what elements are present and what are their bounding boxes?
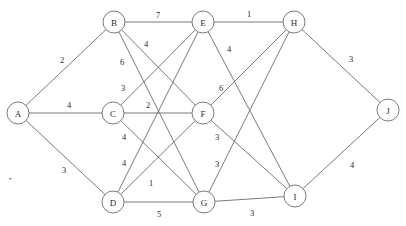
edge-weight-a-d: 3 (62, 165, 66, 175)
scan-artifacts-layer (9, 178, 12, 180)
nodes-layer: ABCDEFGHIJ (7, 11, 399, 213)
edge-weight-g-h: 3 (215, 159, 219, 169)
node-label-d: D (110, 198, 117, 208)
edge-weight-e-h: 1 (247, 9, 251, 19)
node-label-h: H (291, 18, 298, 28)
edge-f-h (211, 30, 286, 105)
edge-weight-a-c: 4 (67, 100, 72, 110)
node-label-i: I (294, 192, 297, 202)
edge-weight-c-e: 3 (121, 83, 125, 93)
edge-d-e (118, 32, 198, 192)
edge-weight-c-f: 2 (146, 100, 150, 110)
node-label-c: C (110, 109, 116, 119)
node-h: H (283, 11, 305, 33)
edge-weight-b-g: 6 (120, 57, 124, 67)
edge-weight-c-g: 4 (122, 132, 127, 142)
node-b: B (103, 11, 125, 33)
edge-g-i (215, 197, 284, 202)
edge-weight-b-f: 4 (144, 39, 149, 49)
edge-weight-b-e: 7 (156, 10, 160, 20)
edge-b-g (119, 32, 199, 192)
node-label-e: E (200, 18, 206, 28)
node-a: A (7, 102, 29, 124)
edge-f-i (211, 120, 287, 188)
node-i: I (284, 185, 306, 207)
node-label-a: A (15, 109, 22, 119)
graph-figure: ABCDEFGHIJ 24374632441514633334 (0, 0, 406, 226)
edge-weight-d-e: 4 (122, 158, 127, 168)
node-c: C (102, 102, 124, 124)
node-label-b: B (111, 18, 117, 28)
graph-canvas: ABCDEFGHIJ 24374632441514633334 (0, 0, 406, 226)
node-label-f: F (200, 109, 205, 119)
edge-a-d (26, 121, 105, 195)
edge-weight-f-i: 3 (215, 132, 219, 142)
edge-weight-d-g: 5 (157, 209, 161, 219)
edge-h-j (302, 30, 380, 103)
edge-a-b (26, 30, 106, 106)
node-j: J (377, 99, 399, 121)
edge-weight-h-j: 3 (349, 54, 353, 64)
edge-weight-d-f: 1 (149, 178, 153, 188)
edge-i-j (303, 117, 380, 188)
scan-artifact-speck (9, 178, 12, 180)
node-label-g: G (201, 198, 208, 208)
node-label-j: J (386, 106, 390, 116)
edge-weight-g-i: 3 (250, 208, 254, 218)
edge-weight-a-b: 2 (60, 55, 64, 65)
node-d: D (102, 191, 124, 213)
edge-weight-i-j: 4 (350, 160, 355, 170)
edge-weight-e-i: 4 (227, 44, 232, 54)
node-f: F (192, 102, 214, 124)
node-g: G (193, 191, 215, 213)
edge-weight-f-h: 6 (219, 83, 223, 93)
node-e: E (192, 11, 214, 33)
